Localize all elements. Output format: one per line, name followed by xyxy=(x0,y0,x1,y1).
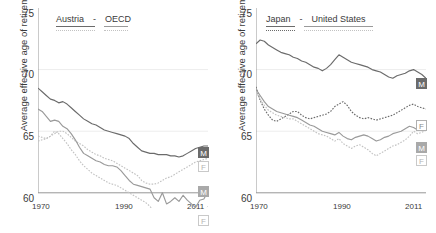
legend-line-solid xyxy=(266,26,295,27)
legend-line-solid xyxy=(56,26,95,27)
legend-swatch-oecd xyxy=(104,26,128,31)
legend-line-dotted xyxy=(304,30,373,31)
legend-entry-b: United States xyxy=(312,14,366,24)
legend-entry-a: Austria xyxy=(56,14,84,24)
legend-separator: - xyxy=(93,14,96,24)
legend-swatch-japan xyxy=(266,26,295,31)
y-tick-65-right: 65 xyxy=(226,131,252,142)
legend-entry-b: OECD xyxy=(105,14,131,24)
legend-line-dotted xyxy=(56,30,95,31)
chart-svg-left xyxy=(38,8,208,208)
end-badge-austria-men: M xyxy=(198,147,209,158)
series-line-japan-men xyxy=(256,40,426,78)
series-line-united-states-men xyxy=(256,89,426,141)
legend-separator: - xyxy=(300,14,303,24)
legend-swatch-austria xyxy=(56,26,95,31)
legend-line-dotted xyxy=(104,30,128,31)
end-badge-oecd-men: M xyxy=(198,186,209,197)
legend-left: Austria-OECD xyxy=(56,14,131,31)
legend-swatches xyxy=(56,26,131,31)
legend-swatch-united-states xyxy=(304,26,373,31)
legend-line-solid xyxy=(104,26,128,27)
y-axis-title-left: Average effective age of retirement xyxy=(18,0,29,133)
y-tick-60-right: 60 xyxy=(226,193,252,204)
end-badge-oecd-women: F xyxy=(198,215,209,226)
series-line-united-states-women xyxy=(256,92,426,156)
end-badge-us-men: M xyxy=(416,142,427,153)
legend-line-solid xyxy=(304,26,373,27)
panel-austria-oecd: Average effective age of retirement 75 7… xyxy=(0,0,218,233)
plot-area-right xyxy=(256,8,426,200)
legend-right: Japan-United States xyxy=(266,14,373,31)
series-group-right xyxy=(256,40,426,156)
retirement-age-figure: Average effective age of retirement 75 7… xyxy=(0,0,436,233)
plot-area-left xyxy=(38,8,208,200)
y-tick-60-left: 60 xyxy=(8,193,34,204)
y-tick-70-right: 70 xyxy=(226,69,252,80)
legend-entry-a: Japan xyxy=(266,14,291,24)
y-tick-75-left: 75 xyxy=(8,8,34,19)
y-tick-65-left: 65 xyxy=(8,131,34,142)
legend-titles: Austria-OECD xyxy=(56,14,131,24)
y-tick-70-left: 70 xyxy=(8,69,34,80)
end-badge-japan-men: M xyxy=(416,78,427,89)
end-badge-us-women: F xyxy=(416,155,427,166)
legend-line-dotted xyxy=(266,30,295,31)
y-axis-title-right: Average effective age of retirement xyxy=(236,0,247,133)
series-line-austria-men xyxy=(38,88,208,157)
y-tick-75-right: 75 xyxy=(226,8,252,19)
series-group-left xyxy=(38,88,208,208)
legend-swatches xyxy=(266,26,373,31)
panel-japan-unitedstates: Average effective age of retirement 75 7… xyxy=(218,0,436,233)
end-badge-japan-women: F xyxy=(416,120,427,131)
chart-svg-right xyxy=(256,8,426,208)
series-line-austria-women xyxy=(38,131,208,184)
end-badge-austria-women: F xyxy=(198,161,209,172)
legend-titles: Japan-United States xyxy=(266,14,373,24)
